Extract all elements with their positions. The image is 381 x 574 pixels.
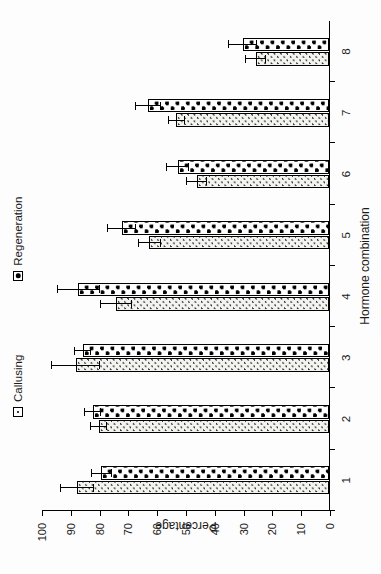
error-bar-cap	[56, 285, 57, 293]
bar-callusing-6	[196, 175, 328, 189]
bar-callusing-7	[176, 113, 329, 127]
error-bar-cap	[51, 361, 52, 369]
value-axis-tick-label: 100	[36, 523, 48, 541]
value-axis-tick-label: 90	[64, 523, 76, 535]
category-axis-tick-label: 2	[340, 416, 352, 422]
plot-canvas: 0102030405060708090100 12345678 Percenta…	[42, 21, 330, 511]
value-axis-tick: 60	[157, 511, 158, 516]
category-axis-title: Hormone combination	[358, 207, 372, 324]
plot-area-container: Callusing Regeneration 01020304050607080…	[6, 7, 376, 567]
legend-label-callusing: Callusing	[12, 355, 24, 402]
error-bar-cap	[91, 469, 92, 477]
category-axis-tick-label: 6	[340, 171, 352, 177]
error-bar-cap	[245, 55, 246, 63]
category-axis-tick	[330, 265, 335, 266]
category-axis-tick-label: 5	[340, 232, 352, 238]
dark-square-icon	[13, 271, 23, 281]
category-axis-tick	[330, 388, 335, 389]
value-axis-tick: 40	[214, 511, 215, 516]
error-bar-cap	[107, 224, 108, 232]
bar-regeneration-1	[101, 466, 329, 480]
error-bar-cap	[100, 300, 101, 308]
legend-item-regeneration: Regeneration	[12, 197, 24, 281]
bar-callusing-5	[149, 236, 329, 250]
category-axis-tick-label: 7	[340, 110, 352, 116]
value-axis-tick: 30	[243, 511, 244, 516]
bar-regeneration-6	[177, 160, 328, 174]
category-axis-tick-label: 1	[340, 477, 352, 483]
bar-callusing-3	[75, 358, 328, 372]
legend-label-regeneration: Regeneration	[12, 197, 24, 266]
category-axis-tick	[330, 143, 335, 144]
legend-item-callusing: Callusing	[12, 355, 24, 417]
error-bar-cap	[137, 239, 138, 247]
bar-regeneration-4	[78, 283, 329, 297]
value-axis-title: Percentage	[155, 519, 216, 533]
error-bar-cap	[59, 484, 60, 492]
bar-callusing-4	[115, 297, 328, 311]
figure-scan-page: Callusing Regeneration 01020304050607080…	[0, 0, 381, 574]
error-bar-cap	[84, 408, 85, 416]
value-axis-tick-label: 10	[295, 523, 307, 535]
rotated-figure: Callusing Regeneration 01020304050607080…	[6, 7, 376, 567]
value-axis-tick: 10	[301, 511, 302, 516]
value-axis-tick-label: 20	[266, 523, 278, 535]
error-bar-cap	[74, 347, 75, 355]
value-axis-tick-label: 80	[93, 523, 105, 535]
category-axis-tick	[330, 81, 335, 82]
bar-regeneration-7	[147, 99, 328, 113]
category-axis-tick-label: 3	[340, 355, 352, 361]
value-axis-tick: 90	[70, 511, 71, 516]
value-axis-tick-label: 30	[237, 523, 249, 535]
error-bar-cap	[134, 102, 135, 110]
error-bar-cap	[167, 116, 168, 124]
value-axis-tick-label: 70	[122, 523, 134, 535]
category-axis-tick	[330, 449, 335, 450]
category-axis-tick	[330, 326, 335, 327]
bar-callusing-1	[77, 481, 329, 495]
value-axis-tick: 70	[128, 511, 129, 516]
value-axis-tick: 80	[99, 511, 100, 516]
error-bar-cap	[166, 163, 167, 171]
error-bar-cap	[89, 422, 90, 430]
value-axis-tick: 50	[186, 511, 187, 516]
value-axis-tick: 0	[330, 511, 331, 516]
value-axis-tick: 100	[42, 511, 43, 516]
bar-regeneration-3	[82, 344, 328, 358]
chart-legend: Callusing Regeneration	[12, 197, 24, 417]
error-bar-cap	[186, 177, 187, 185]
bar-regeneration-2	[92, 405, 328, 419]
category-axis-tick	[330, 204, 335, 205]
value-axis-tick: 20	[272, 511, 273, 516]
bar-regeneration-8	[242, 38, 328, 52]
category-axis-line	[329, 21, 330, 511]
light-square-icon	[13, 407, 23, 417]
value-axis-tick-label: 0	[324, 523, 336, 529]
error-bar-cap	[228, 40, 229, 48]
category-axis-tick-label: 8	[340, 48, 352, 54]
bar-callusing-8	[255, 52, 328, 66]
category-axis-tick	[330, 510, 335, 511]
bar-regeneration-5	[121, 221, 328, 235]
bar-callusing-2	[98, 420, 328, 434]
category-axis-tick-label: 4	[340, 293, 352, 299]
